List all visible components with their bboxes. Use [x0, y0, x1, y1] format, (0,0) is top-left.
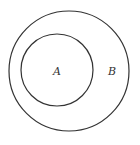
- set-b-label: B: [107, 65, 116, 78]
- venn-diagram: A B: [0, 0, 140, 145]
- set-a-label: A: [52, 65, 61, 78]
